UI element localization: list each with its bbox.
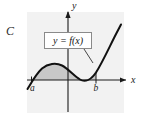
- tick-label-a: a: [30, 83, 35, 93]
- x-axis-label: x: [130, 74, 136, 85]
- figure-container: C x y a b y = f(x): [0, 0, 143, 129]
- y-axis-arrowhead: [65, 11, 70, 18]
- x-axis-arrowhead: [120, 77, 126, 82]
- graph-svg: x y a b: [0, 0, 143, 129]
- y-axis-label: y: [71, 0, 77, 11]
- callout-leader-line: [84, 49, 93, 63]
- function-callout-box: y = f(x): [44, 32, 92, 49]
- function-callout-label: y = f(x): [53, 36, 83, 46]
- tick-label-b: b: [94, 83, 99, 93]
